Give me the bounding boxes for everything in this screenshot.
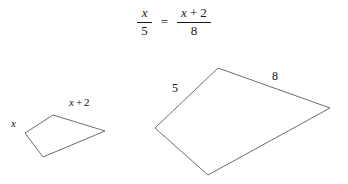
small-quadrilateral bbox=[25, 115, 105, 157]
small-quad-top-side-variable: x bbox=[69, 96, 74, 108]
small-quad-top-side-constant: 2 bbox=[84, 96, 90, 108]
geometry-problem-figure: x 5 = x+2 8 x x+2 5 8 bbox=[0, 0, 348, 184]
large-quad-left-side-label: 5 bbox=[172, 81, 178, 96]
large-quad-top-side-label: 8 bbox=[272, 69, 278, 84]
large-quadrilateral bbox=[155, 68, 330, 175]
small-quad-top-side-label: x+2 bbox=[69, 96, 90, 108]
figures-container: x x+2 5 8 bbox=[0, 0, 348, 184]
small-quad-left-side-label: x bbox=[11, 117, 16, 129]
small-quad-top-side-operator: + bbox=[76, 96, 82, 108]
